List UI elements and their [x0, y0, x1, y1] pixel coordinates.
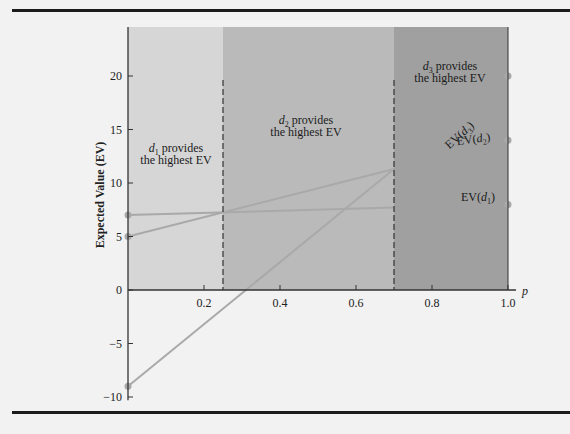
y-tick-label: 0	[116, 283, 122, 297]
y-tick-label: −10	[103, 390, 122, 404]
y-tick-label: 15	[110, 123, 122, 137]
region-sublabel-d3: the highest EV	[414, 71, 486, 85]
y-tick-label: 5	[116, 230, 122, 244]
ev-chart: −10−5051015200.20.40.60.81.0pExpected Va…	[0, 0, 570, 434]
x-tick-label: 0.2	[197, 296, 212, 310]
x-tick-label: 1.0	[501, 296, 516, 310]
region-d2	[223, 27, 394, 290]
x-tick-label: 0.4	[273, 296, 288, 310]
y-axis-label: Expected Value (EV)	[93, 142, 107, 249]
x-tick-label: 0.8	[425, 296, 440, 310]
y-tick-label: −5	[109, 337, 122, 351]
region-sublabel-d1: the highest EV	[140, 153, 212, 167]
y-tick-label: 10	[110, 176, 122, 190]
x-axis-label: p	[521, 284, 528, 298]
region-sublabel-d2: the highest EV	[270, 125, 342, 139]
y-tick-label: 20	[110, 69, 122, 83]
x-tick-label: 0.6	[349, 296, 364, 310]
